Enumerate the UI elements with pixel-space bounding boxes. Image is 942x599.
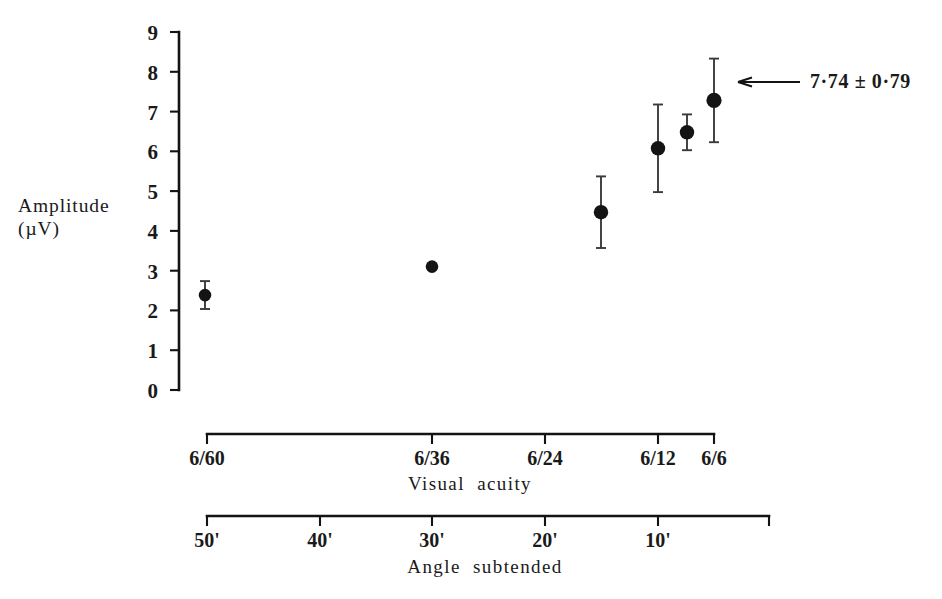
- y-tick-label-2: 2: [132, 299, 158, 324]
- acuity-tick-label-6-36: 6/36: [397, 447, 467, 470]
- y-axis-ticks: [170, 32, 179, 390]
- annotation-value-label: 7·74 ± 0·79: [810, 70, 911, 93]
- data-point-2: [426, 260, 439, 273]
- annotation-arrow-icon: [738, 78, 800, 87]
- acuity-tick-label-6-24: 6/24: [510, 447, 580, 470]
- y-tick-label-6: 6: [132, 140, 158, 165]
- y-axis-title-line2: (µV): [18, 217, 60, 240]
- angle-subtended-axis: [207, 516, 769, 526]
- angle-tick-label-50: 50': [177, 529, 237, 552]
- y-tick-label-4: 4: [132, 220, 158, 245]
- visual-acuity-axis: [207, 434, 714, 444]
- y-tick-label-5: 5: [132, 180, 158, 205]
- visual-acuity-axis-title: Visual acuity: [340, 473, 600, 495]
- acuity-tick-label-6-12: 6/12: [623, 447, 693, 470]
- angle-subtended-axis-title: Angle subtended: [340, 556, 630, 578]
- data-point-4: [651, 105, 665, 193]
- y-tick-label-9: 9: [132, 21, 158, 46]
- data-point-3: [594, 176, 608, 248]
- angle-tick-label-40: 40': [290, 529, 350, 552]
- y-tick-label-3: 3: [132, 260, 158, 285]
- y-axis-title-line1: Amplitude: [18, 194, 110, 217]
- data-point-6: [706, 59, 721, 143]
- y-tick-label-8: 8: [132, 61, 158, 86]
- angle-tick-label-10: 10': [628, 529, 688, 552]
- acuity-tick-label-6-60: 6/60: [172, 447, 242, 470]
- data-point-1: [199, 281, 212, 309]
- angle-tick-label-30: 30': [402, 529, 462, 552]
- figure-panel: 9 8 7 6 5 4 3 2 1 0 Amplitude (µV) 7·74 …: [0, 0, 942, 599]
- y-tick-label-7: 7: [132, 101, 158, 126]
- angle-tick-label-20: 20': [515, 529, 575, 552]
- y-tick-label-1: 1: [132, 339, 158, 364]
- acuity-tick-label-6-6: 6/6: [684, 447, 744, 470]
- y-tick-label-0: 0: [132, 379, 158, 404]
- data-point-5: [680, 114, 694, 150]
